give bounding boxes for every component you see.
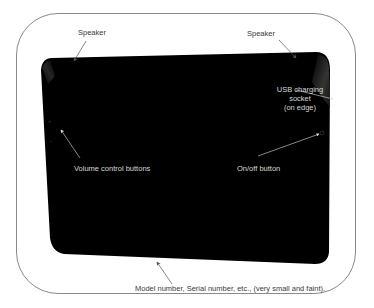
label-model-number: Model number, Serial number, etc., (very… bbox=[135, 284, 325, 293]
tablet-body bbox=[41, 52, 330, 264]
label-onoff-button: On/off button bbox=[237, 164, 280, 173]
volume-plus-icon: + bbox=[48, 118, 52, 124]
label-usb-line1: USB charging bbox=[270, 85, 330, 94]
arrow-model bbox=[157, 262, 172, 284]
tablet-illustration: + – bbox=[0, 0, 374, 308]
label-usb-line3: (on edge) bbox=[270, 103, 330, 112]
label-usb: USB charging socket (on edge) bbox=[270, 85, 330, 112]
label-speaker-left: Speaker bbox=[78, 28, 106, 37]
label-speaker-right: Speaker bbox=[247, 29, 275, 38]
label-volume-buttons: Volume control buttons bbox=[74, 164, 150, 173]
label-usb-line2: socket bbox=[270, 94, 330, 103]
